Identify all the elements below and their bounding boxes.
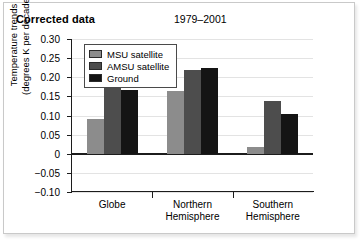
x-axis-tick <box>233 192 234 198</box>
plot-wrapper: 0.300.250.200.150.100.050−0.05−0.10 Glob… <box>72 39 313 192</box>
legend-label-ground: Ground <box>107 73 139 84</box>
x-axis-tick <box>152 192 153 198</box>
figure-frame: Corrected data 1979–2001 Temperature tre… <box>3 2 355 234</box>
y-axis-tick: 0.25 <box>67 58 72 59</box>
legend-label-amsu-satellite: AMSU satellite <box>107 61 169 72</box>
y-axis-tick-label: −0.05 <box>20 167 60 178</box>
legend-swatch-ground <box>89 74 102 82</box>
legend-item: MSU satellite <box>89 48 169 60</box>
bar-amsu-satellite-globe <box>104 86 121 153</box>
y-axis-tick: −0.10 <box>67 192 72 193</box>
y-axis-tick: 0.15 <box>67 96 72 97</box>
y-axis-tick: −0.05 <box>67 173 72 174</box>
legend-swatch-amsu-satellite <box>89 62 102 70</box>
y-axis-tick: 0.05 <box>67 135 72 136</box>
y-axis-tick-label: 0.20 <box>20 72 60 83</box>
legend-item: AMSU satellite <box>89 60 169 72</box>
bar-amsu-satellite-northern-hemisphere <box>184 70 201 153</box>
bar-ground-southern-hemisphere <box>281 114 298 154</box>
bar-msu-satellite-northern-hemisphere <box>167 91 184 154</box>
bar-ground-globe <box>121 90 138 153</box>
chart-period-label: 1979–2001 <box>174 13 227 25</box>
y-axis-tick-label: 0 <box>20 148 60 159</box>
y-axis-tick-label: −0.10 <box>20 187 60 198</box>
bar-msu-satellite-southern-hemisphere <box>247 147 264 154</box>
chart-header: Corrected data 1979–2001 <box>4 13 356 29</box>
y-axis-tick-label: 0.30 <box>20 34 60 45</box>
y-axis-tick-label: 0.05 <box>20 129 60 140</box>
y-axis-tick: 0 <box>67 154 72 155</box>
bar-amsu-satellite-southern-hemisphere <box>264 101 281 154</box>
x-axis-category-label: Northern Hemisphere <box>152 199 232 223</box>
legend-item: Ground <box>89 72 169 84</box>
gridline <box>72 192 313 193</box>
legend-label-msu-satellite: MSU satellite <box>107 49 163 60</box>
y-axis-tick-label: 0.10 <box>20 110 60 121</box>
legend-swatch-msu-satellite <box>89 50 102 58</box>
y-axis-tick-label: 0.15 <box>20 91 60 102</box>
bar-ground-northern-hemisphere <box>201 68 218 154</box>
y-axis-tick: 0.20 <box>67 77 72 78</box>
x-axis-category-label: Globe <box>72 199 152 211</box>
y-axis-tick: 0.10 <box>67 116 72 117</box>
x-axis-category-label: Southern Hemisphere <box>233 199 313 223</box>
bar-msu-satellite-globe <box>87 119 104 153</box>
y-axis-label-line1: Temperature trends <box>8 4 19 86</box>
chart-figure: Corrected data 1979–2001 Temperature tre… <box>0 0 362 240</box>
y-axis-tick: 0.30 <box>67 39 72 40</box>
y-axis-tick-label: 0.25 <box>20 53 60 64</box>
chart-legend: MSU satellite AMSU satellite Ground <box>84 44 177 88</box>
